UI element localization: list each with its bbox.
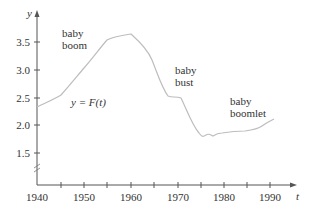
annotation-baby-boomlet-line2: boomlet (230, 107, 266, 119)
y-tick-label: 2.0 (16, 119, 30, 131)
x-axis-arrow-icon (290, 183, 297, 188)
x-tick-label: 1960 (120, 191, 143, 203)
chart-svg: y t 3.5 3.0 2.5 2.0 1.5 1940 1950 1960 1… (0, 0, 310, 212)
y-tick-label: 2.5 (16, 92, 30, 104)
y-tick-label: 1.5 (16, 147, 30, 159)
y-tick-label: 3.0 (16, 64, 30, 76)
function-label: y = F(t) (70, 96, 106, 109)
y-axis-label: y (26, 7, 32, 19)
y-axis-arrow-icon (35, 10, 40, 17)
x-tick-label: 1990 (259, 191, 282, 203)
chart: y t 3.5 3.0 2.5 2.0 1.5 1940 1950 1960 1… (0, 0, 310, 212)
annotation-baby-bust-line1: baby (175, 64, 197, 76)
x-tick-label: 1950 (73, 191, 96, 203)
y-tick-label: 3.5 (16, 36, 30, 48)
annotation-baby-bust-line2: bust (175, 76, 193, 88)
annotation-baby-boom-line2: boom (62, 39, 88, 51)
x-tick-label: 1940 (26, 191, 49, 203)
x-tick-label: 1970 (167, 191, 190, 203)
annotation-baby-boomlet-line1: baby (230, 95, 252, 107)
x-axis-label: t (296, 190, 300, 202)
annotation-baby-boom-line1: baby (62, 27, 84, 39)
x-tick-label: 1980 (213, 191, 236, 203)
